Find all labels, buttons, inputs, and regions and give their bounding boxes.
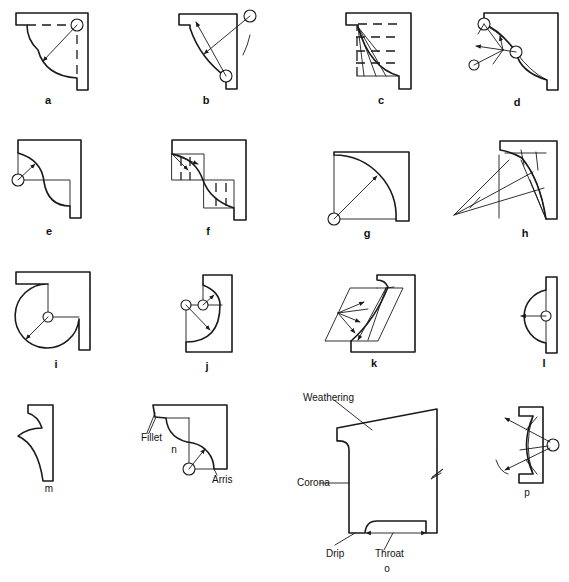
profile-f — [172, 140, 246, 220]
label-a: a — [45, 94, 51, 106]
profile-h — [454, 141, 557, 219]
label-k: k — [371, 357, 377, 369]
label-n: n — [171, 444, 177, 455]
label-c: c — [378, 94, 384, 106]
profile-c — [346, 13, 411, 89]
annotation-drip: Drip — [326, 548, 344, 559]
profiles-drawing — [0, 0, 569, 582]
annotation-corona: Corona — [297, 477, 330, 488]
label-d: d — [514, 96, 521, 108]
profile-o — [320, 400, 443, 550]
label-j: j — [205, 360, 208, 372]
label-b: b — [203, 94, 210, 106]
profile-l — [521, 277, 557, 353]
label-h: h — [522, 227, 529, 239]
profile-i — [15, 272, 90, 350]
label-o: o — [384, 563, 390, 574]
profile-b — [179, 10, 256, 89]
profile-d — [469, 13, 558, 90]
profile-p — [496, 407, 559, 483]
profile-k — [325, 275, 415, 352]
profile-a — [16, 13, 88, 90]
moulding-profiles-figure: a b c d e f g h i j k l m n o p Weatheri… — [0, 0, 569, 582]
annotation-arris: Arris — [212, 474, 233, 485]
annotation-throat: Throat — [375, 548, 404, 559]
label-m: m — [45, 483, 53, 494]
profile-g — [328, 152, 409, 225]
label-i: i — [54, 358, 57, 370]
label-p: p — [524, 487, 530, 498]
label-f: f — [206, 225, 210, 237]
label-e: e — [46, 225, 52, 237]
profile-e — [12, 140, 81, 218]
profile-m — [18, 405, 53, 481]
profile-j — [181, 275, 232, 352]
label-g: g — [364, 227, 371, 239]
annotation-fillet: Fillet — [141, 432, 162, 443]
label-l: l — [542, 357, 545, 369]
annotation-weathering: Weathering — [303, 392, 354, 403]
